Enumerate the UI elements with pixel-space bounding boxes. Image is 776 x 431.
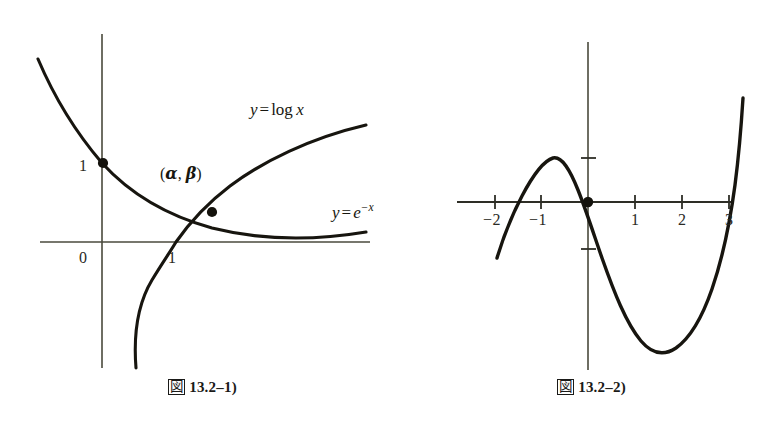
point-label-close: ) [196, 165, 201, 182]
point-label-comma: , [178, 165, 182, 182]
log-label-arg: x [296, 100, 304, 119]
exp-label-exponent: −x [361, 201, 374, 214]
exp-label-base: e [353, 203, 361, 222]
right-tick-label-3: 3 [725, 211, 733, 229]
exp-label-equals: = [340, 203, 354, 222]
exp-label-y: y [332, 203, 340, 222]
right-tick-label-1: 1 [631, 211, 639, 229]
curve-label-exp: y=e−x [332, 201, 374, 223]
intersection-point-label: (α, β) [160, 164, 202, 183]
logarithm-curve [135, 125, 366, 368]
log-label-equals: = [258, 100, 272, 119]
caption-suffix-right: –2) [605, 379, 626, 395]
caption-number-left: 13.2 [189, 379, 216, 395]
right-tick-label-minus2: −2 [483, 211, 501, 229]
point-label-beta: β [186, 164, 197, 183]
right-tick-label-2: 2 [678, 211, 686, 229]
left-x-axis-one-label: 1 [168, 249, 176, 267]
caption-kanji-right: 図 [557, 379, 574, 395]
intersection-dot [207, 207, 217, 217]
caption-number-right: 13.2 [578, 379, 605, 395]
right-tick-label-minus1: −1 [529, 211, 547, 229]
caption-figure-left: 図13.2–1) [168, 378, 237, 396]
log-label-y: y [250, 100, 258, 119]
caption-suffix-left: –1) [216, 379, 237, 395]
figure-left-group [38, 34, 370, 368]
curve-label-log: y=log x [250, 100, 304, 120]
y-intercept-dot [98, 158, 108, 168]
point-label-alpha: α [165, 164, 177, 183]
caption-kanji-left: 図 [168, 379, 185, 395]
log-label-fn: log [271, 100, 293, 119]
left-y-axis-one-label: 1 [79, 157, 87, 175]
origin-dot [583, 197, 593, 207]
caption-figure-right: 図13.2–2) [557, 378, 626, 396]
left-origin-label: 0 [79, 249, 87, 267]
figures-canvas [0, 0, 776, 431]
figure-right-group [457, 42, 743, 370]
